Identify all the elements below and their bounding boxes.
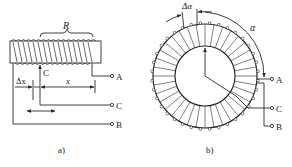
label-r: R (62, 20, 69, 31)
delta-alpha-tick-1 (182, 12, 184, 28)
label-terminal-c-b: C (276, 104, 282, 114)
terminal-b-b (270, 124, 273, 127)
terminal-a-a (110, 74, 113, 77)
caption-a: a) (58, 145, 65, 155)
winding-coils (13, 42, 92, 62)
label-terminal-b-b: B (276, 122, 282, 132)
terminal-a-b (270, 77, 273, 80)
label-terminal-c-a: C (116, 101, 122, 111)
delta-alpha-arrow-left (166, 15, 181, 22)
label-delta-alpha: Δα (181, 1, 192, 11)
caption-b: b) (206, 145, 214, 155)
label-wiper-c: C (43, 68, 49, 78)
label-x: x (65, 76, 70, 86)
terminal-c-b (270, 106, 273, 109)
lead-a (92, 63, 110, 76)
lead-b-b (257, 83, 270, 126)
label-terminal-b-a: B (116, 120, 122, 130)
label-terminal-a-a: A (116, 72, 123, 82)
wiper-arm (205, 76, 236, 96)
potentiometer-diagram: R C Δx x A C B a) Δα α A C B b) (0, 0, 292, 167)
terminal-c-a (110, 103, 113, 106)
lead-b (13, 63, 110, 124)
label-delta-x: Δx (16, 76, 26, 86)
label-alpha: α (250, 22, 256, 33)
terminal-b-a (110, 122, 113, 125)
label-terminal-a-b: A (276, 75, 283, 85)
